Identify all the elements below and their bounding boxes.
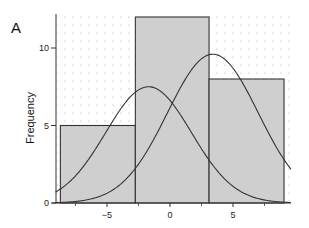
x-tick-label: 5 bbox=[230, 210, 235, 220]
y-axis-ticks: 0510 bbox=[39, 43, 56, 208]
y-tick-label: 5 bbox=[44, 121, 49, 131]
x-tick-label: 0 bbox=[167, 210, 172, 220]
histogram-bar-1 bbox=[60, 126, 135, 204]
histogram-chart: −505 0510 bbox=[0, 0, 309, 228]
x-axis-ticks: −505 bbox=[76, 203, 265, 220]
x-tick-label: −5 bbox=[102, 210, 112, 220]
y-tick-label: 10 bbox=[39, 43, 49, 53]
histogram-bar-2 bbox=[135, 17, 209, 203]
y-tick-label: 0 bbox=[44, 198, 49, 208]
